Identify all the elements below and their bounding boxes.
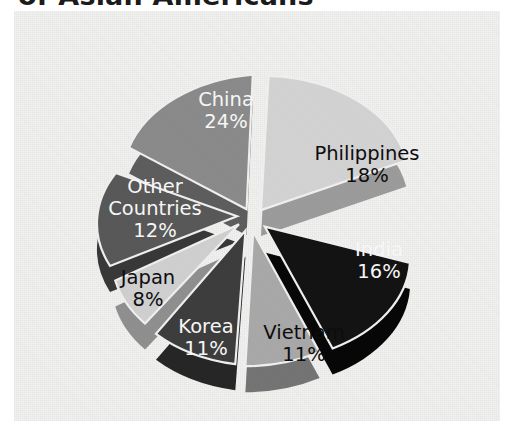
figure-title: of Asian Americans	[18, 0, 314, 11]
pie-chart-svg	[14, 11, 500, 421]
pie-slice-tops	[97, 75, 410, 367]
figure-title-strip: of Asian Americans	[0, 0, 514, 11]
pie-chart-figure: of Asian Americans	[0, 0, 514, 427]
scanned-page-panel: China 24% Philippines 18% India 16% Viet…	[14, 11, 500, 421]
pie-chart: China 24% Philippines 18% India 16% Viet…	[14, 11, 500, 421]
